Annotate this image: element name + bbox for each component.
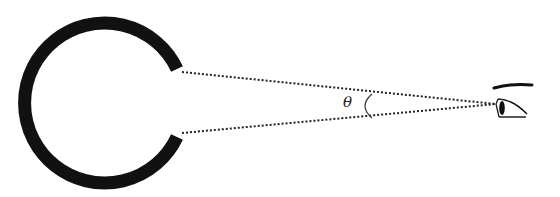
angle-label-theta: θ [343, 93, 352, 111]
lower-sight-line [182, 104, 496, 133]
upper-sight-line [182, 72, 496, 104]
eye-corner [496, 99, 499, 117]
angle-arc [365, 94, 372, 118]
eyebrow [494, 84, 532, 88]
eye-icon [494, 84, 532, 117]
pupil [499, 101, 505, 115]
angular-size-diagram [0, 0, 560, 197]
open-ring-object [25, 23, 177, 183]
